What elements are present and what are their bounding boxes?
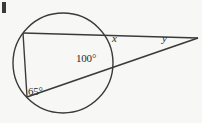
geometry-figure: 100° 65° x y xyxy=(0,0,202,123)
angle-label-x: x xyxy=(112,33,117,44)
angle-label-65: 65° xyxy=(28,86,43,97)
lower-secant-line xyxy=(27,38,198,97)
circle-shape xyxy=(13,13,113,113)
upper-secant-line xyxy=(23,33,198,38)
angle-label-y: y xyxy=(162,33,167,44)
left-chord-line xyxy=(23,33,27,97)
angle-label-100: 100° xyxy=(76,53,96,64)
geometry-canvas xyxy=(0,0,202,123)
